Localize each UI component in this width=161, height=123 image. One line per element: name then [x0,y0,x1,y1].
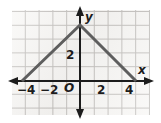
y-tick-label-2: 2 [66,49,74,61]
x-tick-label-4: 4 [125,84,133,96]
x-axis-name-label: x [138,64,146,76]
absolute-value-graph-figure: −4 −2 2 4 2 O x y [0,0,161,123]
y-axis-name-label: y [85,11,93,23]
y-axis-top-arrowhead [76,6,84,16]
x-tick-label-2: 2 [97,84,105,96]
graph-overlay [0,0,161,123]
origin-label: O [64,82,74,94]
x-axis-right-arrowhead [144,77,154,85]
x-tick-label-minus-4: −4 [17,84,35,96]
y-axis-bottom-arrowhead [76,109,84,119]
x-tick-label-minus-2: −2 [40,84,58,96]
